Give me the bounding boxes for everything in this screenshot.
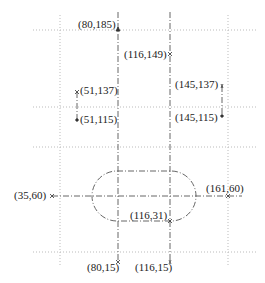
label-p2: (116,149) <box>124 48 167 61</box>
label-p3: (51,137) <box>80 84 118 97</box>
label-p10: (80,15) <box>87 261 119 274</box>
label-p4: (51,115) <box>80 113 118 126</box>
label-p5: (145,137) <box>175 78 218 91</box>
marker-p4 <box>76 119 79 122</box>
label-p9: (116,31) <box>130 209 168 222</box>
diagram-svg: (80,185) (116,149) (51,137) (51,115) (14… <box>0 0 265 283</box>
marker-p2 <box>168 52 172 56</box>
marker-p6 <box>221 115 224 118</box>
diagram-canvas: (80,185) (116,149) (51,137) (51,115) (14… <box>0 0 265 283</box>
label-p8: (161,60) <box>206 182 244 195</box>
label-p1: (80,185) <box>78 18 116 31</box>
markers <box>50 27 230 264</box>
label-p6: (145,115) <box>175 111 218 124</box>
label-p11: (116,15) <box>135 261 173 274</box>
label-p7: (35,60) <box>14 189 46 202</box>
marker-p1 <box>116 27 120 31</box>
labels: (80,185) (116,149) (51,137) (51,115) (14… <box>14 18 244 274</box>
